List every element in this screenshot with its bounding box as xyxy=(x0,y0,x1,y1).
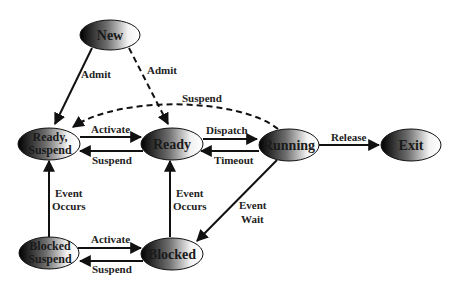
edge-label-release: Release xyxy=(331,131,367,143)
node-blocked-suspend: Blocked Suspend xyxy=(19,237,79,269)
node-label-ready-suspend-1: Ready, xyxy=(32,130,67,144)
node-label-blocked-suspend-2: Suspend xyxy=(28,252,72,266)
node-blocked: Blocked xyxy=(141,238,203,270)
edge-label-dispatch: Dispatch xyxy=(206,124,248,136)
node-running: Running xyxy=(259,129,319,161)
node-exit: Exit xyxy=(381,129,441,161)
node-ready: Ready xyxy=(141,128,203,160)
node-label-exit: Exit xyxy=(399,138,424,153)
node-label-running: Running xyxy=(263,138,315,153)
edges: Admit Admit Suspend Activate Suspend Dis… xyxy=(49,48,379,275)
edge-label-admit-2: Admit xyxy=(147,64,177,76)
node-label-ready-suspend-2: Suspend xyxy=(28,143,72,157)
edge-label-timeout: Timeout xyxy=(214,154,254,166)
state-diagram: Admit Admit Suspend Activate Suspend Dis… xyxy=(0,0,458,287)
edge-label-event-wait-1: Event xyxy=(239,199,267,211)
edge-label-activate-bottom: Activate xyxy=(91,233,130,245)
node-label-blocked-suspend-1: Blocked xyxy=(29,239,71,253)
edge-label-event-occurs-right-2: Occurs xyxy=(173,200,207,212)
edge-label-admit-1: Admit xyxy=(81,68,111,80)
node-ready-suspend: Ready, Suspend xyxy=(18,128,80,160)
edge-label-suspend-blocked: Suspend xyxy=(92,263,132,275)
edge-label-activate-top: Activate xyxy=(91,123,130,135)
edge-label-event-wait-2: Wait xyxy=(241,213,264,225)
edge-admit-ready-suspend xyxy=(55,48,92,124)
edge-label-suspend-arc: Suspend xyxy=(182,92,222,104)
edge-label-suspend-ready: Suspend xyxy=(92,154,132,166)
node-new: New xyxy=(80,20,140,50)
edge-label-event-occurs-left-2: Occurs xyxy=(52,200,86,212)
node-label-new: New xyxy=(97,28,124,43)
edge-label-event-occurs-left-1: Event xyxy=(55,187,83,199)
node-label-blocked: Blocked xyxy=(148,247,196,262)
node-label-ready: Ready xyxy=(153,137,191,152)
edge-admit-ready xyxy=(129,48,168,124)
edge-label-event-occurs-right-1: Event xyxy=(176,187,204,199)
